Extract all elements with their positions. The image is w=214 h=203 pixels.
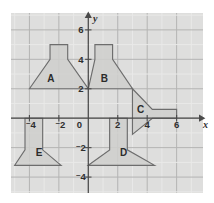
coordinate-grid-figure: –4–20246642–2–4 x y ABCDE xyxy=(0,0,214,203)
x-axis-label: x xyxy=(202,119,208,130)
y-tick-label-2-text: 2 xyxy=(78,83,83,94)
y-tick-label-6-text: 6 xyxy=(78,24,83,35)
figure-label-c: C xyxy=(137,104,144,115)
y-axis-label: y xyxy=(92,13,98,24)
y-tick-label-6: 6 xyxy=(78,24,83,35)
x-tick-label-2-text: 2 xyxy=(115,119,120,130)
x-tick-label-0: 0 xyxy=(77,119,82,130)
y-tick-label-4-text: 4 xyxy=(78,54,84,65)
x-tick-label-6-text: 6 xyxy=(174,119,179,130)
x-tick-label-4: 4 xyxy=(145,119,151,130)
figure-label-b: B xyxy=(101,73,108,84)
figure-label-e: E xyxy=(36,147,43,158)
y-tick-label-4: 4 xyxy=(78,54,84,65)
x-tick-label-2: 2 xyxy=(115,119,120,130)
x-tick-label-6: 6 xyxy=(174,119,179,130)
y-tick-label-2: 2 xyxy=(78,83,83,94)
x-tick-label-0-text: 0 xyxy=(77,119,82,130)
x-tick-label-4-text: 4 xyxy=(145,119,151,130)
coordinate-plane-svg: –4–20246642–2–4 x y ABCDE xyxy=(0,0,214,203)
figure-label-a: A xyxy=(47,73,54,84)
figure-label-d: D xyxy=(120,147,127,158)
